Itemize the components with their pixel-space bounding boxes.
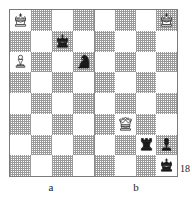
board-square bbox=[10, 135, 31, 156]
board-square bbox=[10, 93, 31, 114]
board-square bbox=[10, 114, 31, 135]
board-square bbox=[95, 114, 116, 135]
chess-boards-container bbox=[9, 9, 178, 177]
board-square bbox=[31, 10, 52, 31]
board-square bbox=[136, 10, 157, 31]
board-square bbox=[73, 155, 94, 176]
chess-board-b bbox=[94, 10, 178, 176]
board-square bbox=[52, 155, 73, 176]
board-square bbox=[73, 93, 94, 114]
board-square bbox=[31, 72, 52, 93]
board-square bbox=[73, 135, 94, 156]
board-square bbox=[95, 155, 116, 176]
chess-diagram-figure: a b 18 bbox=[0, 0, 192, 203]
board-square bbox=[73, 52, 94, 73]
board-square bbox=[136, 155, 157, 176]
board-square bbox=[156, 114, 177, 135]
board-square bbox=[73, 10, 94, 31]
board-square bbox=[10, 155, 31, 176]
piece-white-queen bbox=[115, 114, 136, 135]
board-square bbox=[156, 31, 177, 52]
board-square bbox=[52, 135, 73, 156]
board-square bbox=[31, 155, 52, 176]
board-square bbox=[136, 52, 157, 73]
board-square bbox=[115, 114, 136, 135]
piece-black-knight bbox=[73, 52, 94, 73]
diagram-label-b: b bbox=[126, 181, 146, 193]
board-square bbox=[115, 93, 136, 114]
board-square bbox=[95, 52, 116, 73]
board-square bbox=[115, 10, 136, 31]
diagram-label-a: a bbox=[41, 181, 61, 193]
board-square bbox=[52, 114, 73, 135]
board-square bbox=[136, 93, 157, 114]
piece-black-pawn bbox=[156, 135, 177, 156]
board-square bbox=[156, 10, 177, 31]
board-square bbox=[73, 72, 94, 93]
board-square bbox=[31, 135, 52, 156]
board-square bbox=[31, 114, 52, 135]
board-square bbox=[31, 93, 52, 114]
board-square bbox=[52, 52, 73, 73]
piece-black-king bbox=[156, 155, 177, 176]
piece-white-pawn bbox=[10, 52, 31, 73]
board-square bbox=[115, 135, 136, 156]
board-square bbox=[95, 10, 116, 31]
board-square bbox=[52, 93, 73, 114]
piece-white-king bbox=[10, 10, 31, 31]
board-square bbox=[10, 72, 31, 93]
board-square bbox=[52, 72, 73, 93]
board-square bbox=[156, 52, 177, 73]
board-square bbox=[156, 155, 177, 176]
board-square bbox=[52, 10, 73, 31]
board-square bbox=[115, 72, 136, 93]
board-square bbox=[73, 114, 94, 135]
board-square bbox=[136, 31, 157, 52]
board-square bbox=[136, 135, 157, 156]
piece-black-rook bbox=[136, 135, 157, 156]
board-square bbox=[136, 72, 157, 93]
board-square bbox=[95, 135, 116, 156]
board-square bbox=[156, 93, 177, 114]
file-label-row: a b bbox=[9, 181, 178, 197]
board-square bbox=[10, 52, 31, 73]
board-square bbox=[156, 72, 177, 93]
board-square bbox=[31, 52, 52, 73]
board-square bbox=[95, 72, 116, 93]
board-square bbox=[31, 31, 52, 52]
board-square bbox=[136, 114, 157, 135]
board-square bbox=[95, 31, 116, 52]
chess-board-a bbox=[10, 10, 94, 176]
piece-white-king bbox=[156, 10, 177, 31]
piece-black-king bbox=[52, 31, 73, 52]
board-square bbox=[10, 10, 31, 31]
board-square bbox=[73, 31, 94, 52]
board-square bbox=[10, 31, 31, 52]
page-number: 18 bbox=[180, 163, 190, 174]
board-square bbox=[156, 135, 177, 156]
board-square bbox=[95, 93, 116, 114]
board-square bbox=[115, 52, 136, 73]
board-square bbox=[115, 155, 136, 176]
board-square bbox=[52, 31, 73, 52]
board-square bbox=[115, 31, 136, 52]
